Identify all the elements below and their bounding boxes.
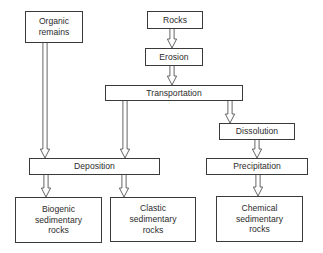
node-clastic-rocks: Clastic sedimentary rocks xyxy=(110,197,196,242)
arrow-transportation-to-dissolution xyxy=(225,101,234,123)
node-label-clastic-rocks: Clastic sedimentary rocks xyxy=(111,203,195,235)
arrow-rocks-to-erosion xyxy=(167,29,176,48)
node-label-precipitation: Precipitation xyxy=(207,161,307,172)
arrow-organic-to-deposition xyxy=(40,43,49,158)
node-biogenic-rocks: Biogenic sedimentary rocks xyxy=(15,197,102,243)
node-organic-remains: Organic remains xyxy=(25,11,83,43)
sedimentary-rock-flowchart: Organic remainsRocksErosionTransportatio… xyxy=(0,0,323,253)
node-transportation: Transportation xyxy=(105,85,243,101)
arrow-precipitation-to-chemical xyxy=(253,175,262,196)
node-label-deposition: Deposition xyxy=(30,161,159,172)
node-deposition: Deposition xyxy=(29,158,160,175)
arrow-deposition-to-biogenic xyxy=(41,175,50,197)
arrow-erosion-to-transportation xyxy=(167,66,176,85)
node-label-rocks: Rocks xyxy=(148,15,202,26)
node-label-biogenic-rocks: Biogenic sedimentary rocks xyxy=(16,204,101,236)
arrow-dissolution-to-precipitation xyxy=(252,140,261,158)
node-erosion: Erosion xyxy=(145,48,203,66)
node-label-transportation: Transportation xyxy=(106,88,242,99)
node-precipitation: Precipitation xyxy=(206,158,308,175)
node-rocks: Rocks xyxy=(147,11,203,29)
node-label-erosion: Erosion xyxy=(146,52,202,63)
node-label-chemical-rocks: Chemical sedimentary rocks xyxy=(217,203,302,235)
arrow-deposition-to-clastic xyxy=(119,175,128,197)
node-dissolution: Dissolution xyxy=(219,123,295,140)
arrow-transportation-to-deposition xyxy=(120,101,129,158)
node-label-dissolution: Dissolution xyxy=(220,126,294,137)
node-label-organic-remains: Organic remains xyxy=(26,16,82,38)
node-chemical-rocks: Chemical sedimentary rocks xyxy=(216,196,303,242)
